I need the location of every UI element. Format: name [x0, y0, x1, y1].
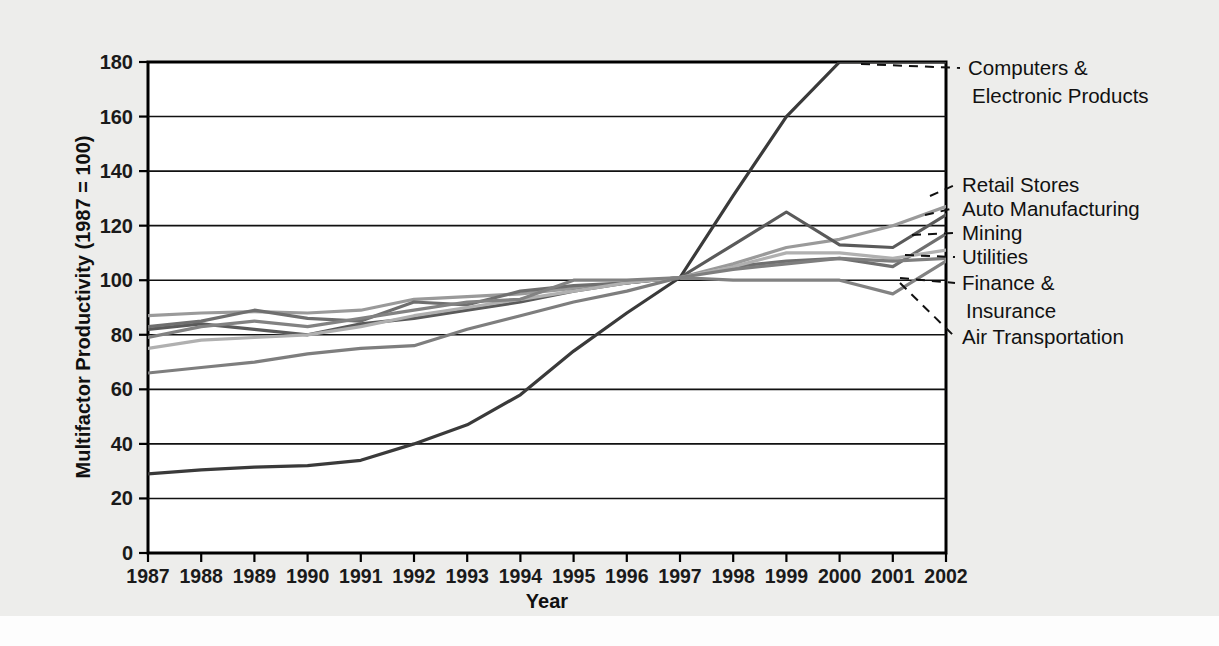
chart-figure: 020406080100120140160180 198719881989199… [0, 0, 1219, 646]
x-tick-label: 1993 [446, 565, 490, 587]
y-tick-label: 40 [111, 433, 133, 455]
x-tick-label: 1991 [339, 565, 383, 587]
series-annotations: Computers &Electronic ProductsRetail Sto… [962, 56, 1149, 348]
series-label-mining: Mining [962, 221, 1022, 244]
x-axis-ticks: 1987198819891990199119921993199419951996… [126, 553, 968, 587]
x-tick-label: 1992 [392, 565, 436, 587]
x-tick-label: 1994 [499, 565, 543, 587]
x-tick-label: 1988 [180, 565, 224, 587]
series-label-air: Air Transportation [962, 325, 1124, 348]
series-label-utilities: Utilities [962, 245, 1028, 268]
x-tick-label: 1989 [233, 565, 277, 587]
y-tick-label: 20 [111, 487, 133, 509]
y-axis-title: Multifactor Productivity (1987 = 100) [72, 136, 94, 479]
x-tick-label: 1990 [286, 565, 330, 587]
x-tick-label: 1987 [126, 565, 169, 587]
y-tick-label: 180 [100, 51, 133, 73]
series-label-finance: Finance & [962, 271, 1055, 294]
line-chart: 020406080100120140160180 198719881989199… [0, 0, 1219, 646]
x-tick-label: 2000 [818, 565, 862, 587]
x-axis-title: Year [526, 590, 568, 612]
y-axis-ticks: 020406080100120140160180 [100, 51, 148, 564]
x-tick-label: 1995 [552, 565, 596, 587]
y-tick-label: 80 [111, 324, 133, 346]
x-tick-label: 1997 [658, 565, 701, 587]
x-tick-label: 1999 [765, 565, 809, 587]
series-label-finance-line2: Insurance [966, 299, 1056, 322]
y-tick-label: 120 [100, 215, 133, 237]
series-label-auto: Auto Manufacturing [962, 197, 1140, 220]
y-tick-label: 60 [111, 378, 133, 400]
x-tick-label: 2002 [924, 565, 968, 587]
series-label-retail: Retail Stores [962, 173, 1079, 196]
series-label-computers-line2: Electronic Products [972, 84, 1149, 107]
x-tick-label: 2001 [871, 565, 915, 587]
x-tick-label: 1996 [605, 565, 649, 587]
y-tick-label: 0 [122, 542, 133, 564]
y-tick-label: 160 [100, 106, 133, 128]
series-label-computers: Computers & [968, 56, 1088, 79]
x-tick-label: 1998 [712, 565, 756, 587]
y-tick-label: 100 [100, 269, 133, 291]
y-tick-label: 140 [100, 160, 133, 182]
